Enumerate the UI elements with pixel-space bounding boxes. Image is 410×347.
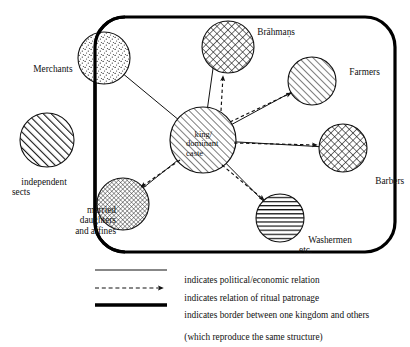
- node-farmers: [288, 57, 336, 105]
- node-merchants: [78, 32, 130, 84]
- legend-border-line2: (which reproduce the same structure): [184, 332, 322, 342]
- label-brahmans: Brāhmaṇs: [248, 16, 295, 48]
- label-barbers: Barbers: [366, 165, 404, 197]
- label-merchants: Merchants: [24, 53, 73, 85]
- legend-label-border: indicates border between one kingdom and…: [175, 299, 369, 347]
- label-king-dominant-caste: king/dominantcaste: [186, 120, 218, 168]
- label-washermen: Washermenetc.: [299, 224, 352, 266]
- label-married-daughters: marrieddaughtersand affines: [56, 194, 116, 247]
- node-barbers: [319, 124, 367, 172]
- node-independent-sects: [20, 113, 74, 167]
- node-washermen: [256, 194, 304, 242]
- label-farmers: Farmers: [340, 56, 380, 88]
- node-brahmans: [202, 21, 254, 73]
- edge-ritual-king-brahmans: [221, 76, 223, 111]
- legend-samples: [95, 270, 167, 305]
- legend-border-line1: indicates border between one kingdom and…: [184, 310, 369, 320]
